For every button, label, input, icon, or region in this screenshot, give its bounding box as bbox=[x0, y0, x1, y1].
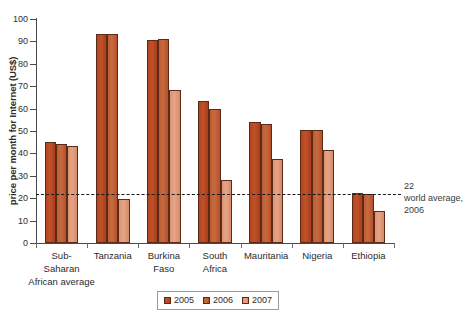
bar-2006-5 bbox=[312, 130, 323, 243]
bar-2005-4 bbox=[249, 122, 260, 243]
world-average-value: 22 bbox=[404, 180, 463, 192]
bar-2005-3 bbox=[198, 101, 209, 243]
legend-label-2005: 2005 bbox=[174, 296, 194, 305]
world-average-caption: world average, bbox=[404, 192, 463, 204]
world-average-year: 2006 bbox=[404, 204, 463, 216]
bar-2006-6 bbox=[363, 194, 374, 243]
x-axis-tick bbox=[394, 243, 395, 248]
bar-2006-2 bbox=[158, 39, 169, 244]
x-axis-tick bbox=[292, 243, 293, 248]
bar-2005-0 bbox=[45, 142, 56, 243]
y-axis-tick-label: 70 bbox=[18, 82, 28, 91]
legend: 200520062007 bbox=[157, 291, 279, 310]
x-axis-line bbox=[36, 243, 395, 244]
bar-2007-4 bbox=[272, 159, 283, 243]
y-axis-tick-label: 60 bbox=[18, 104, 28, 113]
bar-2006-1 bbox=[107, 34, 118, 243]
chart-figure: price per month for Internet (US$) 01020… bbox=[0, 0, 467, 317]
y-axis-tick-label: 80 bbox=[18, 59, 28, 68]
y-axis-tick bbox=[30, 176, 36, 177]
legend-swatch-2005 bbox=[164, 297, 171, 304]
y-axis-tick-label: 10 bbox=[18, 216, 28, 225]
y-axis-tick-label: 40 bbox=[18, 149, 28, 158]
bar-2007-2 bbox=[169, 90, 180, 243]
y-axis-tick bbox=[30, 64, 36, 65]
bar-2007-3 bbox=[221, 180, 232, 243]
bar-2007-5 bbox=[323, 150, 334, 243]
x-axis-tick bbox=[138, 243, 139, 248]
x-axis-tick bbox=[87, 243, 88, 248]
plot-area bbox=[36, 19, 394, 243]
y-axis-tick-label: 90 bbox=[18, 37, 28, 46]
legend-swatch-2007 bbox=[242, 297, 249, 304]
x-axis-label: Ethiopia bbox=[335, 249, 402, 262]
y-axis-tick-label: 30 bbox=[18, 171, 28, 180]
bar-2005-6 bbox=[352, 193, 363, 243]
legend-label-2006: 2006 bbox=[213, 296, 233, 305]
bar-2005-5 bbox=[300, 130, 311, 243]
y-axis-tick bbox=[30, 109, 36, 110]
y-axis-tick-label: 0 bbox=[23, 239, 28, 248]
y-axis-tick-label: 100 bbox=[13, 15, 28, 24]
y-axis-tick bbox=[30, 86, 36, 87]
y-axis-tick bbox=[30, 19, 36, 20]
world-average-annotation: 22 world average, 2006 bbox=[404, 180, 463, 216]
y-axis-tick-label: 50 bbox=[18, 127, 28, 136]
legend-item-2007: 2007 bbox=[242, 296, 272, 305]
bar-2005-2 bbox=[147, 40, 158, 243]
x-axis-tick bbox=[343, 243, 344, 248]
x-axis-tick bbox=[36, 243, 37, 248]
y-axis-tick bbox=[30, 131, 36, 132]
legend-item-2005: 2005 bbox=[164, 296, 194, 305]
legend-label-2007: 2007 bbox=[252, 296, 272, 305]
x-axis-tick bbox=[189, 243, 190, 248]
x-axis-tick bbox=[241, 243, 242, 248]
bar-2007-6 bbox=[374, 211, 385, 243]
bar-2006-4 bbox=[261, 124, 272, 243]
bar-2006-3 bbox=[209, 109, 220, 243]
y-axis-tick bbox=[30, 41, 36, 42]
bar-2007-1 bbox=[118, 199, 129, 243]
legend-item-2006: 2006 bbox=[203, 296, 233, 305]
y-axis-tick bbox=[30, 221, 36, 222]
y-axis-tick bbox=[30, 198, 36, 199]
y-axis-tick bbox=[30, 153, 36, 154]
bar-2005-1 bbox=[96, 34, 107, 243]
legend-swatch-2006 bbox=[203, 297, 210, 304]
world-average-reference-line bbox=[36, 194, 401, 195]
y-axis-tick-label: 20 bbox=[18, 194, 28, 203]
